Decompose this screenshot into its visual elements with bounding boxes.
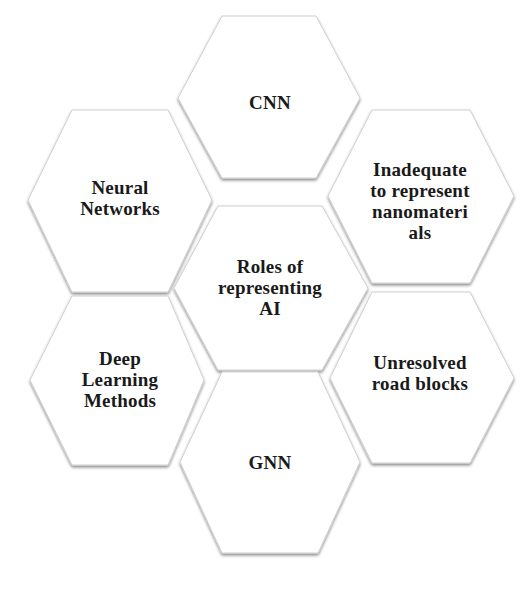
node-inadequate-label: Inadequate to represent nanomateri als — [345, 155, 495, 247]
node-text-line: Networks — [80, 198, 160, 219]
node-deep-learning-label: Deep Learning Methods — [50, 344, 190, 414]
node-text: CNN — [249, 92, 291, 113]
node-text-line: Inadequate — [373, 159, 467, 180]
node-text-line: to represent — [370, 180, 469, 201]
node-text-line: Deep — [99, 348, 141, 369]
node-text-line: als — [409, 222, 432, 243]
node-unresolved-label: Unresolved road blocks — [345, 350, 495, 396]
center-text-line: representing — [218, 277, 322, 298]
node-text-line: Methods — [84, 390, 156, 411]
node-cnn-label: CNN — [200, 90, 340, 114]
center-text-line: AI — [259, 298, 281, 319]
node-neural-networks-label: Neural Networks — [50, 175, 190, 221]
node-text-line: nanomateri — [372, 201, 468, 222]
node-text-line: Learning — [82, 369, 159, 390]
node-text: GNN — [249, 452, 292, 473]
node-text-line: road blocks — [372, 373, 468, 394]
node-text-line: Unresolved — [373, 352, 466, 373]
node-gnn-label: GNN — [200, 450, 340, 474]
center-roles-label: Roles of representing AI — [195, 252, 345, 322]
center-text-line: Roles of — [237, 256, 304, 277]
node-text-line: Neural — [91, 177, 148, 198]
